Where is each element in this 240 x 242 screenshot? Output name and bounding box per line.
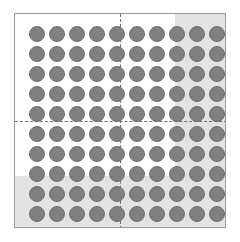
data-point bbox=[109, 146, 125, 162]
data-point bbox=[89, 46, 105, 62]
data-point bbox=[149, 26, 165, 42]
data-point bbox=[209, 126, 225, 142]
data-point bbox=[109, 66, 125, 82]
data-point bbox=[89, 66, 105, 82]
data-point bbox=[69, 166, 85, 182]
data-point bbox=[149, 146, 165, 162]
data-point bbox=[49, 66, 65, 82]
data-point bbox=[129, 186, 145, 202]
data-point bbox=[109, 106, 125, 122]
data-point bbox=[69, 106, 85, 122]
data-point bbox=[189, 106, 205, 122]
data-point bbox=[189, 66, 205, 82]
data-point bbox=[209, 66, 225, 82]
data-point bbox=[169, 46, 185, 62]
data-point bbox=[109, 166, 125, 182]
data-point bbox=[69, 46, 85, 62]
data-point bbox=[189, 206, 205, 222]
data-point bbox=[49, 86, 65, 102]
data-point bbox=[189, 46, 205, 62]
data-point bbox=[89, 146, 105, 162]
data-point bbox=[149, 186, 165, 202]
data-point bbox=[49, 126, 65, 142]
data-point bbox=[149, 206, 165, 222]
data-point bbox=[109, 26, 125, 42]
plot-frame bbox=[14, 13, 226, 228]
data-point bbox=[69, 146, 85, 162]
data-point bbox=[49, 206, 65, 222]
data-point bbox=[109, 206, 125, 222]
data-point bbox=[129, 46, 145, 62]
data-point bbox=[29, 146, 45, 162]
data-point bbox=[169, 126, 185, 142]
data-point bbox=[149, 106, 165, 122]
data-point bbox=[169, 86, 185, 102]
data-point bbox=[189, 86, 205, 102]
data-point bbox=[189, 146, 205, 162]
data-point bbox=[49, 26, 65, 42]
figure-root bbox=[0, 0, 240, 242]
data-point bbox=[169, 66, 185, 82]
data-point bbox=[69, 66, 85, 82]
data-point bbox=[49, 166, 65, 182]
data-point bbox=[29, 26, 45, 42]
data-point bbox=[209, 186, 225, 202]
data-point bbox=[29, 46, 45, 62]
data-point bbox=[149, 166, 165, 182]
data-point bbox=[109, 86, 125, 102]
data-point bbox=[89, 26, 105, 42]
data-point bbox=[29, 166, 45, 182]
data-point bbox=[169, 186, 185, 202]
data-point bbox=[29, 126, 45, 142]
data-point bbox=[89, 166, 105, 182]
data-point bbox=[169, 166, 185, 182]
data-point bbox=[209, 86, 225, 102]
data-point bbox=[169, 26, 185, 42]
dot-grid bbox=[15, 14, 226, 228]
data-point bbox=[209, 106, 225, 122]
data-point bbox=[29, 86, 45, 102]
data-point bbox=[109, 186, 125, 202]
data-point bbox=[129, 86, 145, 102]
data-point bbox=[69, 86, 85, 102]
data-point bbox=[209, 26, 225, 42]
data-point bbox=[29, 66, 45, 82]
data-point bbox=[169, 206, 185, 222]
data-point bbox=[49, 106, 65, 122]
data-point bbox=[169, 146, 185, 162]
data-point bbox=[149, 126, 165, 142]
data-point bbox=[29, 206, 45, 222]
data-point bbox=[209, 206, 225, 222]
data-point bbox=[69, 126, 85, 142]
data-point bbox=[29, 186, 45, 202]
data-point bbox=[109, 126, 125, 142]
data-point bbox=[209, 146, 225, 162]
data-point bbox=[189, 126, 205, 142]
data-point bbox=[129, 66, 145, 82]
data-point bbox=[129, 126, 145, 142]
data-point bbox=[69, 186, 85, 202]
data-point bbox=[189, 166, 205, 182]
data-point bbox=[89, 106, 105, 122]
data-point bbox=[129, 146, 145, 162]
data-point bbox=[89, 126, 105, 142]
data-point bbox=[149, 46, 165, 62]
data-point bbox=[189, 186, 205, 202]
data-point bbox=[209, 166, 225, 182]
data-point bbox=[89, 86, 105, 102]
data-point bbox=[29, 106, 45, 122]
data-point bbox=[109, 46, 125, 62]
data-point bbox=[189, 26, 205, 42]
data-point bbox=[49, 146, 65, 162]
data-point bbox=[209, 46, 225, 62]
data-point bbox=[129, 106, 145, 122]
data-point bbox=[129, 166, 145, 182]
data-point bbox=[49, 186, 65, 202]
data-point bbox=[69, 206, 85, 222]
data-point bbox=[89, 186, 105, 202]
data-point bbox=[129, 206, 145, 222]
data-point bbox=[149, 66, 165, 82]
data-point bbox=[69, 26, 85, 42]
data-point bbox=[129, 26, 145, 42]
data-point bbox=[169, 106, 185, 122]
